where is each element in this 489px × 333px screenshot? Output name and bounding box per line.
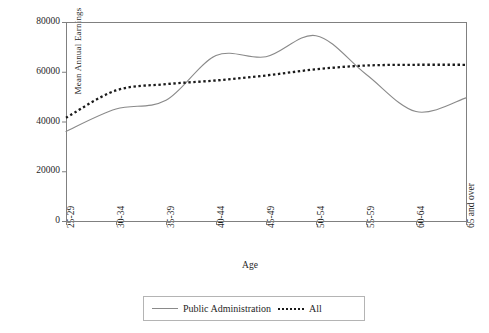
plot-frame bbox=[67, 23, 467, 222]
chart-figure: Mean Annual Earnings Age 020000400006000… bbox=[0, 0, 489, 333]
solid-line-icon bbox=[152, 308, 178, 309]
legend-item-all[interactable]: All bbox=[278, 297, 322, 320]
legend-label: All bbox=[309, 303, 322, 314]
series-line-1 bbox=[66, 65, 466, 118]
plot-area bbox=[0, 0, 489, 333]
legend-label: Public Administration bbox=[183, 303, 271, 314]
legend-item-public-administration[interactable]: Public Administration bbox=[152, 297, 271, 320]
chart-legend: Public AdministrationAll bbox=[143, 296, 365, 321]
dotted-line-icon bbox=[278, 308, 304, 310]
series-line-0 bbox=[66, 35, 466, 131]
